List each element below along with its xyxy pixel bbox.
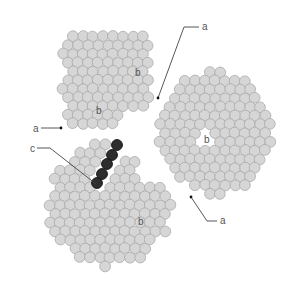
highlighted-fiber	[92, 178, 103, 189]
upper-left-bundle	[57, 31, 154, 130]
label-b-2: b	[96, 105, 102, 116]
label-b-4: b	[138, 216, 144, 227]
leader-a-bottom-right	[191, 197, 217, 221]
label-b-3: b	[204, 134, 210, 145]
fiber	[74, 252, 85, 263]
fiber	[97, 119, 108, 130]
fiber	[128, 101, 139, 112]
fiber	[240, 180, 251, 191]
leader-dot	[157, 97, 160, 100]
highlighted-fiber	[102, 159, 113, 170]
fiber	[87, 118, 98, 129]
fiber	[55, 234, 66, 245]
fiber	[67, 118, 78, 129]
label-a-bottom-right: a	[220, 215, 226, 226]
fiber	[205, 188, 216, 199]
fiber	[160, 226, 171, 237]
fiber	[107, 118, 118, 129]
fiber	[100, 261, 111, 272]
label-c: c	[30, 143, 35, 154]
label-b-1: b	[135, 67, 141, 78]
fiber	[85, 252, 96, 263]
fiber	[135, 252, 146, 263]
leader-dot	[60, 127, 63, 130]
fiber	[260, 145, 271, 156]
fiber	[190, 180, 201, 191]
fiber	[125, 252, 136, 263]
fiber-bundle-diagram: aacabbbb	[0, 0, 308, 285]
fiber	[175, 172, 186, 183]
fiber	[138, 100, 149, 111]
fiber	[214, 189, 225, 200]
fiber-layer	[44, 31, 275, 272]
leader-dot	[190, 196, 193, 199]
diagram-canvas: aacabbbb	[0, 0, 308, 285]
fiber	[114, 252, 125, 263]
label-a-left: a	[33, 123, 39, 134]
label-a-top: a	[202, 21, 208, 32]
right-bundle	[154, 67, 275, 200]
highlighted-fiber	[112, 140, 123, 151]
